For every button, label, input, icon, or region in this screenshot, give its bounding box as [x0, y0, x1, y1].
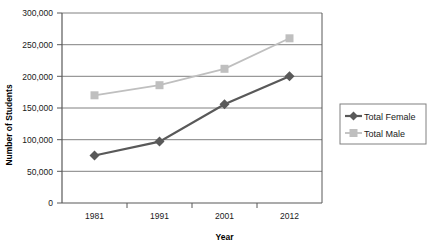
legend-item-total-male[interactable]: Total Male [345, 129, 405, 139]
square-marker-icon [350, 129, 358, 137]
y-axis-title: Number of Students [4, 84, 14, 165]
male-point-1991 [156, 81, 164, 89]
y-tick-label: 250,000 [22, 40, 53, 50]
x-tick-label: 1981 [85, 211, 104, 221]
male-point-2012 [286, 34, 294, 42]
x-tick-label: 1991 [150, 211, 169, 221]
x-tick-labels: 1981 1991 2001 2012 [85, 211, 299, 221]
legend-label-female: Total Female [364, 112, 416, 122]
legend-label-male: Total Male [364, 129, 405, 139]
y-tick-label: 150,000 [22, 103, 53, 113]
legend: Total Female Total Male [340, 104, 426, 144]
chart-canvas: 300,000 250,000 200,000 150,000 100,000 … [0, 0, 431, 251]
y-tick-label: 0 [48, 198, 53, 208]
line-chart: 300,000 250,000 200,000 150,000 100,000 … [0, 0, 431, 251]
x-tick-label: 2012 [280, 211, 299, 221]
male-point-1981 [91, 91, 99, 99]
x-axis-title: Year [216, 232, 235, 242]
x-tick-label: 2001 [215, 211, 234, 221]
male-point-2001 [221, 65, 229, 73]
y-tick-label: 300,000 [22, 8, 53, 18]
y-tick-label: 100,000 [22, 135, 53, 145]
y-tick-label: 200,000 [22, 72, 53, 82]
y-tick-labels: 300,000 250,000 200,000 150,000 100,000 … [22, 8, 53, 208]
x-axis-ticks [127, 203, 257, 208]
y-axis-ticks [57, 13, 62, 203]
y-tick-label: 50,000 [27, 167, 53, 177]
